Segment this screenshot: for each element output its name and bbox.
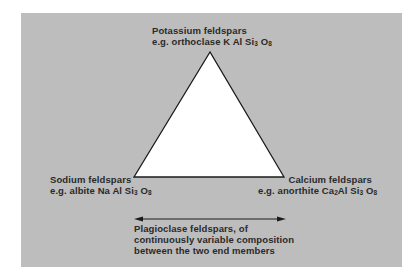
potassium-feldspar-label: Potassium feldspars e.g. orthoclase K Al… [152,25,272,47]
potassium-title: Potassium feldspars [152,25,272,36]
calcium-formula: e.g. anorthite Ca2Al Si3 O8 [258,185,372,196]
plagioclase-double-arrow [134,217,286,222]
plagioclase-line-2: continuously variable composition [134,234,294,245]
sodium-title: Sodium feldspars [50,174,152,185]
sodium-feldspar-label: Sodium feldspars e.g. albite Na Al Si3 O… [50,174,152,196]
feldspar-triangle [134,52,284,177]
plagioclase-line-1: Plagioclase feldspars, of [134,223,294,234]
calcium-title: Calcium feldspars [258,174,372,185]
potassium-formula: e.g. orthoclase K Al Si3 O8 [152,36,272,47]
calcium-feldspar-label: Calcium feldspars e.g. anorthite Ca2Al S… [258,174,372,196]
plagioclase-line-3: between the two end members [134,245,294,256]
plagioclase-label: Plagioclase feldspars, of continuously v… [134,223,294,256]
sodium-formula: e.g. albite Na Al Si3 O8 [50,185,152,196]
